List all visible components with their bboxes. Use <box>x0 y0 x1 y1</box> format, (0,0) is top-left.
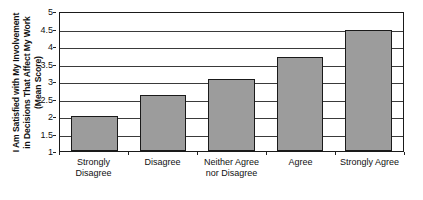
bar-slot <box>334 13 403 151</box>
y-tick-mark <box>53 30 56 31</box>
bar[interactable] <box>277 57 324 152</box>
x-axis-label: Disagree <box>128 155 197 189</box>
y-tick-label: 4.5 <box>40 25 53 34</box>
x-axis-label: Agree <box>266 155 335 189</box>
x-axis-label: StronglyDisagree <box>59 155 128 189</box>
y-axis-title: I Am Satisfied with My Involvement in De… <box>0 0 34 165</box>
x-axis-label-line: Disagree <box>59 168 128 179</box>
x-axis-label-line: Strongly <box>59 157 128 168</box>
bar-slot <box>266 13 335 151</box>
bar[interactable] <box>208 79 255 151</box>
x-tick-mark <box>404 152 405 155</box>
x-axis-label-line: Agree <box>266 157 335 168</box>
x-axis-label-line: Disagree <box>128 157 197 168</box>
y-axis-ticks: 54.543.532.521.51 <box>34 0 56 200</box>
y-tick-mark <box>53 47 56 48</box>
y-tick-label: 3.5 <box>40 60 53 69</box>
y-tick-mark <box>53 152 56 153</box>
x-axis-labels: StronglyDisagreeDisagreeNeither Agreenor… <box>59 155 404 189</box>
y-tick-mark <box>53 117 56 118</box>
x-axis-label: Neither Agreenor Disagree <box>197 155 266 189</box>
x-axis-label-line: nor Disagree <box>197 168 266 179</box>
y-tick-label: 1.5 <box>40 130 53 139</box>
bar[interactable] <box>345 30 392 151</box>
x-axis-label: Strongly Agree <box>335 155 404 189</box>
y-tick-mark <box>53 82 56 83</box>
bar-series <box>60 13 403 151</box>
y-tick-label: 2.5 <box>40 95 53 104</box>
y-tick-mark <box>53 65 56 66</box>
plot-area <box>59 12 404 152</box>
bar-slot <box>197 13 266 151</box>
y-tick-mark <box>53 100 56 101</box>
bar-chart-figure: I Am Satisfied with My Involvement in De… <box>0 0 423 200</box>
bar[interactable] <box>140 95 187 151</box>
x-axis-label-line: Strongly Agree <box>335 157 404 168</box>
bar-slot <box>129 13 198 151</box>
bar-slot <box>60 13 129 151</box>
x-axis-label-line: Neither Agree <box>197 157 266 168</box>
y-tick-mark <box>53 135 56 136</box>
bar[interactable] <box>71 116 118 151</box>
y-tick-mark <box>53 12 56 13</box>
